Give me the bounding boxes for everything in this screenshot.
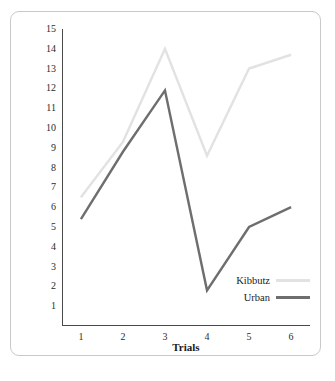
chart-legend: Kibbutz Urban (210, 272, 310, 306)
y-axis-tick-label: 5 (36, 222, 56, 232)
y-axis-tick-label: 9 (36, 143, 56, 153)
series-line-kibbutz (81, 49, 291, 198)
y-axis-tick-label: 6 (36, 202, 56, 212)
legend-swatch-kibbutz (276, 279, 310, 282)
y-axis-tick-label: 11 (36, 103, 56, 113)
series-line-urban (81, 90, 291, 290)
y-axis-tick-label: 2 (36, 281, 56, 291)
y-axis-tick-labels: 123456789101112131415 (36, 29, 56, 326)
plot-area: Trials Kibbutz Urban (62, 29, 310, 326)
y-axis-tick-label: 7 (36, 182, 56, 192)
figure: Average number of circles crossed per tr… (0, 0, 335, 381)
legend-item-kibbutz: Kibbutz (210, 272, 310, 289)
y-axis-tick-label: 8 (36, 163, 56, 173)
legend-label-kibbutz: Kibbutz (236, 275, 270, 286)
legend-item-urban: Urban (210, 289, 310, 306)
data-series-group (81, 49, 291, 291)
y-axis-tick-label: 10 (36, 123, 56, 133)
y-axis-tick-label: 13 (36, 64, 56, 74)
legend-label-urban: Urban (244, 292, 270, 303)
y-axis-tick-label: 15 (36, 24, 56, 34)
y-axis-tick-label: 12 (36, 83, 56, 93)
y-axis-tick-label: 14 (36, 44, 56, 54)
y-axis-tick-label: 1 (36, 301, 56, 311)
x-axis-label: Trials (62, 341, 310, 353)
y-axis-tick-label: 3 (36, 262, 56, 272)
y-axis-tick-label: 4 (36, 242, 56, 252)
legend-swatch-urban (276, 296, 310, 299)
